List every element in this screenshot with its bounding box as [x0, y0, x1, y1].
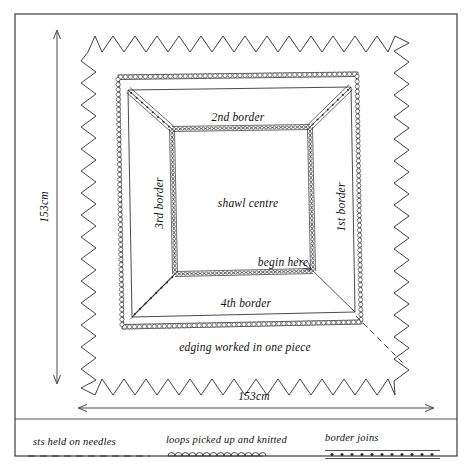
legend-key-dotted-double-line	[325, 451, 440, 459]
label-3rd-border: 3rd border	[153, 177, 165, 228]
diagram-canvas: 2nd border shawl centre 1st border 3rd b…	[0, 0, 475, 473]
label-begin-here: begin here	[258, 256, 308, 268]
label-1st-border: 1st border	[335, 182, 347, 231]
label-dimension-height: 153cm	[38, 191, 50, 223]
label-dimension-width: 153cm	[238, 390, 270, 402]
page-frame	[15, 14, 457, 456]
label-2nd-border: 2nd border	[211, 111, 264, 123]
legend-label-loops-picked-up: loops picked up and knitted	[166, 434, 287, 445]
legend-label-border-joins: border joins	[325, 432, 379, 443]
legend-label-sts-held-on-needles: sts held on needles	[33, 436, 116, 447]
dimension-width-arrow	[78, 405, 434, 412]
label-edging-worked-in-one-piece: edging worked in one piece	[179, 341, 311, 353]
shawl-diagram-svg	[0, 0, 475, 473]
dimension-height-arrow	[54, 30, 61, 384]
label-shawl-centre: shawl centre	[218, 197, 278, 209]
label-4th-border: 4th border	[221, 297, 271, 309]
